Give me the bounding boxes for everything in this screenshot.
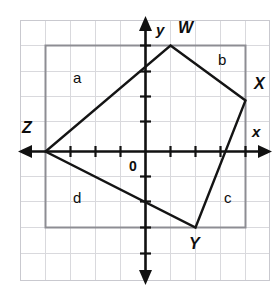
vertex-label-w: W [178,20,193,36]
vertex-label-x: X [254,76,265,92]
region-label-a: a [73,70,81,85]
coordinate-plane-svg [0,0,280,301]
y-axis-label: y [156,22,164,37]
origin-label: 0 [129,159,137,173]
region-label-c: c [224,190,232,205]
coordinate-plane-figure: y x 0 W X Y Z a b c d [0,0,280,301]
x-axis-label: x [252,124,260,139]
region-label-b: b [218,52,226,67]
vertex-label-y: Y [189,236,200,252]
vertex-label-z: Z [22,120,32,136]
region-label-d: d [73,190,81,205]
